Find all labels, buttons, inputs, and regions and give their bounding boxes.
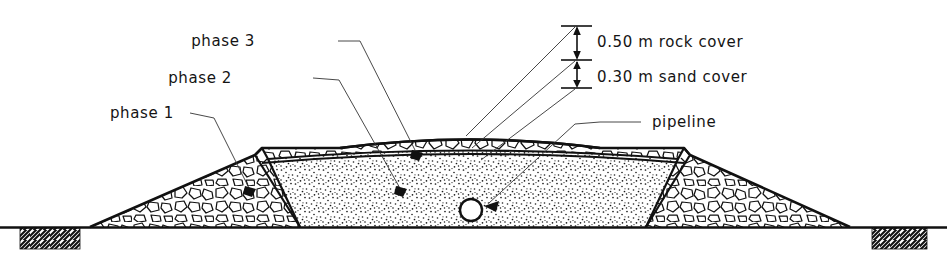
label-phase-3: phase 3 [191, 32, 255, 50]
label-rock-cover: 0.50 m rock cover [597, 33, 743, 51]
label-pipeline: pipeline [652, 113, 716, 131]
dim-arrow-rock-down [573, 51, 581, 60]
leader-dim-top [466, 27, 575, 136]
label-phase-1: phase 1 [110, 104, 174, 122]
pipeline-berm-diagram: phase 3 phase 2 phase 1 pipeline 0.50 m … [0, 0, 947, 265]
cross-section-figure: phase 3 phase 2 phase 1 pipeline 0.50 m … [0, 0, 947, 265]
dimension-stack [561, 26, 592, 88]
leader-dim-mid [472, 61, 575, 148]
label-sand-cover: 0.30 m sand cover [597, 68, 747, 86]
ground-symbol-right [872, 228, 927, 249]
leader-phase3 [338, 41, 417, 154]
dim-arrow-sand-up [573, 61, 581, 69]
label-phase-2: phase 2 [168, 69, 232, 87]
ground-symbol-left [20, 228, 80, 249]
pipeline-circle [460, 199, 482, 221]
dim-arrow-sand-down [573, 80, 581, 88]
